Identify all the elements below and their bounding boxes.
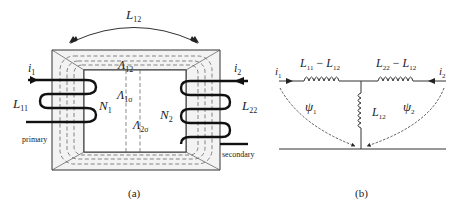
flux-1-arrow xyxy=(280,88,355,146)
caption-b: (b) xyxy=(355,187,368,200)
left-series-inductor xyxy=(304,77,339,81)
flux-2-label: ψ2 xyxy=(403,99,415,116)
figure-canvas: L12 xyxy=(0,0,457,211)
primary-label: primary xyxy=(22,135,47,144)
mutual-inductance-label: L12 xyxy=(125,7,141,24)
primary-inductance-label: L11 xyxy=(12,96,28,113)
secondary-inductance-label: L22 xyxy=(241,98,257,115)
primary-current-label: i1 xyxy=(28,61,35,77)
secondary-current-arrow-icon xyxy=(234,77,244,85)
primary-current-arrow-icon xyxy=(30,76,38,84)
left-current-label: i1 xyxy=(275,65,282,80)
transformer-diagram: L12 xyxy=(12,7,257,200)
shunt-label: L12 xyxy=(371,105,386,121)
mutual-inductance-arc xyxy=(69,28,199,45)
right-series-inductor xyxy=(378,77,413,81)
right-current-arrow-icon xyxy=(428,78,435,84)
secondary-current-label: i2 xyxy=(234,61,241,77)
shunt-inductor xyxy=(358,93,361,128)
right-current-label: i2 xyxy=(439,65,446,80)
left-current-arrow-icon xyxy=(286,78,293,84)
left-series-label: L11 − L12 xyxy=(299,56,340,72)
equivalent-circuit: i1 i2 L11 − L12 L22 − L12 L12 ψ1 ψ2 (b) xyxy=(275,56,446,200)
flux-1-label: ψ1 xyxy=(305,99,317,116)
right-series-label: L22 − L12 xyxy=(375,56,417,72)
secondary-label: secondary xyxy=(222,150,254,159)
caption-a: (a) xyxy=(128,187,141,200)
